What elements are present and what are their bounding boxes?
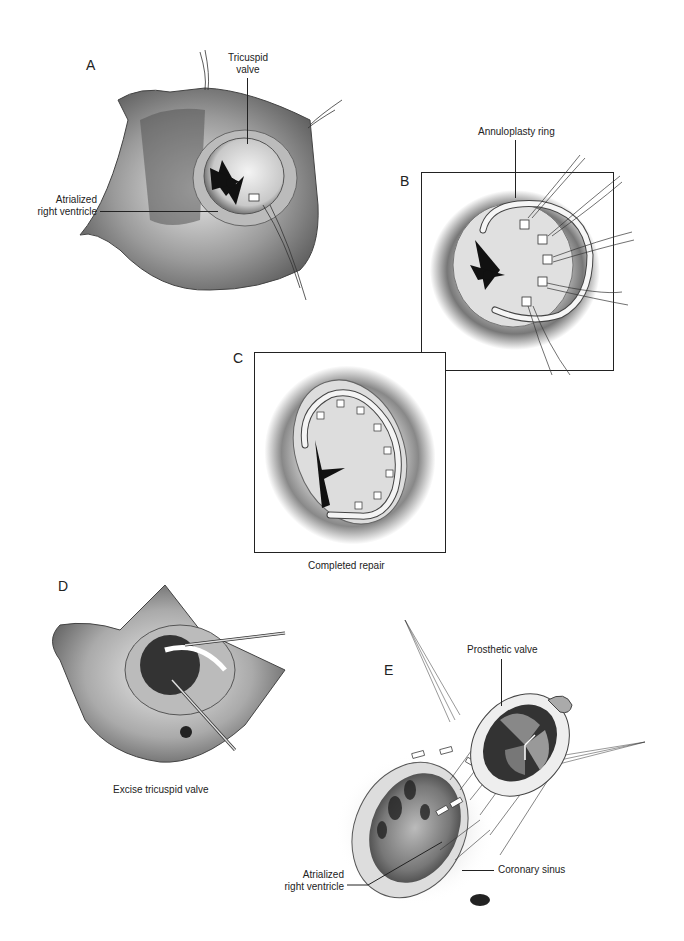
leader-atrialized-rv-e [345,840,445,890]
leader-tricuspid-valve [247,78,248,144]
leader-annuloplasty-ring [515,140,516,198]
label-atrialized-rv-e-line1: Atrialized [262,869,344,881]
panel-letter-b: B [400,173,409,189]
caption-completed-repair: Completed repair [308,560,385,572]
panel-a-illustration [60,50,350,310]
leader-atrialized-rv-a [100,211,218,212]
label-prosthetic-valve: Prosthetic valve [467,644,538,656]
caption-excise-tricuspid-valve: Excise tricuspid valve [113,784,209,796]
panel-d-illustration [40,580,300,770]
leader-prosthetic-valve [501,659,502,706]
leader-coronary-sinus [462,870,494,871]
label-annuloplasty-ring: Annuloplasty ring [478,126,555,138]
label-atrialized-rv-a-line2: right ventricle [20,206,97,218]
label-tricuspid-valve-line1: Tricuspid [223,52,273,64]
panel-letter-c: C [233,350,243,366]
label-atrialized-rv-a-line1: Atrialized [20,194,97,206]
label-tricuspid-valve-line2: valve [223,64,273,76]
panel-c-illustration [254,352,446,553]
panel-b-illustration [421,140,681,380]
label-atrialized-rv-e-line2: right ventricle [262,881,344,893]
label-coronary-sinus: Coronary sinus [498,864,565,876]
